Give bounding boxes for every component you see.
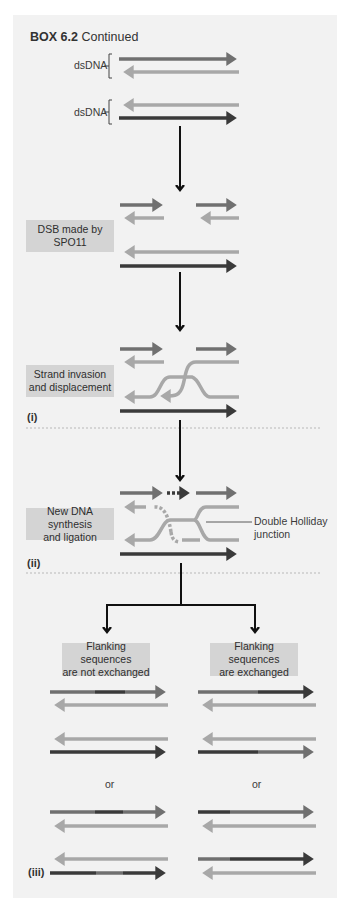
outcome-right-line2: are exchanged — [219, 666, 288, 678]
step-dsb-line1: DSB made by — [38, 223, 103, 235]
step-synthesis-line2: and ligation — [43, 531, 97, 543]
branch-arrows — [106, 563, 256, 632]
panel-label-i: (i) — [27, 411, 37, 423]
outcome-left-line2: are not exchanged — [63, 666, 150, 678]
dsdna-label-1: dsDNA — [74, 59, 107, 71]
step-label-invasion: Strand invasionand displacement — [26, 365, 114, 397]
outcome-left-line1: Flanking sequences — [81, 640, 132, 665]
dsdna-1 — [104, 54, 239, 78]
dsdna-label-2: dsDNA — [74, 106, 107, 118]
outcome-label-not-exchanged: Flanking sequencesare not exchanged — [62, 643, 150, 676]
step-label-synthesis: New DNA synthesisand ligation — [26, 508, 114, 540]
step-invasion-line1: Strand invasion — [34, 368, 106, 380]
outcome-right-line1: Flanking sequences — [229, 640, 280, 665]
step-label-dsb: DSB made bySPO11 — [26, 220, 114, 252]
holliday-junction-label: Double Hollidayjunction — [254, 515, 328, 541]
holliday-line1: Double Holliday — [254, 515, 328, 527]
holliday-line2: junction — [254, 528, 290, 540]
step-invasion-line2: and displacement — [29, 381, 111, 393]
meiotic-recombination-diagram — [0, 0, 337, 898]
strand-invasion-strands — [120, 349, 239, 411]
step-synthesis-line1: New DNA synthesis — [47, 505, 93, 530]
step-dsb-line2: SPO11 — [53, 236, 86, 248]
or-label-left: or — [105, 778, 114, 790]
panel-label-ii: (ii) — [27, 557, 40, 569]
synthesis-strands — [120, 493, 252, 554]
outcome-label-exchanged: Flanking sequencesare exchanged — [210, 643, 298, 676]
or-label-right: or — [252, 778, 261, 790]
dsdna-2 — [104, 100, 239, 124]
dsb-strands — [120, 205, 239, 266]
panel-label-iii: (iii) — [28, 866, 45, 878]
